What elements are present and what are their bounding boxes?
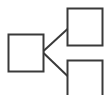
root-node [9, 35, 44, 72]
child-node-top [68, 9, 103, 46]
hierarchy-diagram-icon [0, 0, 109, 95]
edge-root-to-top [44, 29, 68, 51]
edge-root-to-bottom [44, 53, 68, 76]
child-node-bottom [68, 61, 103, 96]
